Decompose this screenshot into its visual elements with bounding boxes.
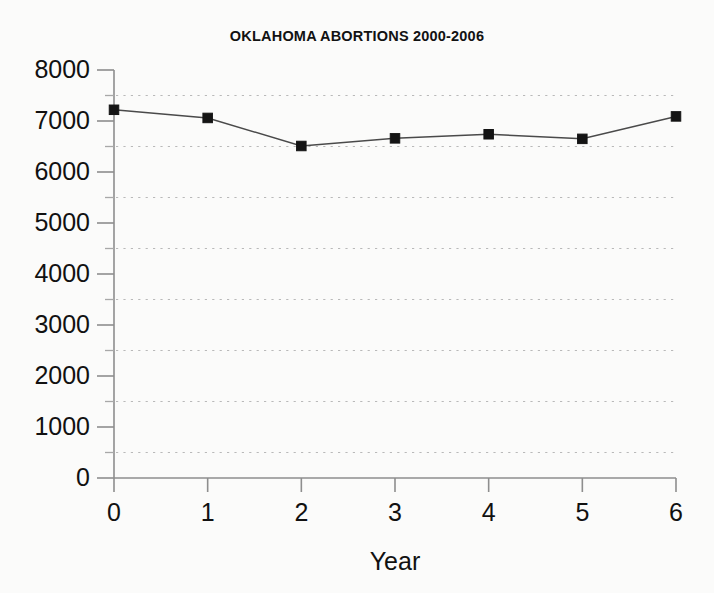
line-chart-plot: 010002000300040005000600070008000 012345… [0,0,714,593]
data-point-marker [203,113,213,123]
gridlines-group [116,96,676,453]
y-tick-label: 2000 [34,361,90,389]
x-tick-label: 0 [107,498,121,526]
y-tick-label: 5000 [34,208,90,236]
data-point-marker [578,134,588,144]
y-tick-label: 0 [76,463,90,491]
data-point-marker [484,130,494,140]
x-axis-ticks [114,478,676,492]
x-tick-label: 4 [482,498,496,526]
y-axis-ticks [97,70,114,478]
y-tick-label: 8000 [34,55,90,83]
x-tick-label: 5 [575,498,589,526]
x-tick-label: 6 [669,498,683,526]
y-tick-label: 3000 [34,310,90,338]
x-tick-label: 1 [201,498,215,526]
data-point-marker [390,134,400,144]
data-point-marker [671,112,681,122]
data-point-markers [109,105,681,151]
x-tick-label: 3 [388,498,402,526]
x-axis-title: Year [370,547,421,575]
data-point-marker [297,141,307,151]
chart-page: OKLAHOMA ABORTIONS 2000-2006 01000200030… [0,0,714,593]
y-tick-label: 7000 [34,106,90,134]
x-axis-tick-labels: 0123456 [107,498,683,526]
data-point-marker [109,105,119,115]
y-axis-tick-labels: 010002000300040005000600070008000 [34,55,90,491]
y-tick-label: 6000 [34,157,90,185]
x-tick-label: 2 [294,498,308,526]
y-tick-label: 4000 [34,259,90,287]
y-tick-label: 1000 [34,412,90,440]
axes-group [114,70,676,478]
